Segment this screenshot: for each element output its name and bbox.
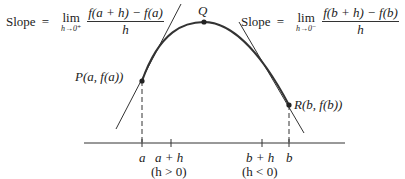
point-p xyxy=(139,78,144,83)
fraction: f(a + h) − f(a) h xyxy=(87,6,164,38)
denominator: h xyxy=(357,22,364,38)
axis-label-a: a xyxy=(139,151,146,164)
axis-label-b-plus-h-condition: (h < 0) xyxy=(242,165,278,178)
point-r xyxy=(286,102,291,107)
axis-label-a-plus-h-condition: (h > 0) xyxy=(151,165,187,178)
slope-label: Slope xyxy=(241,14,271,30)
axis-label-a-plus-h: a + h xyxy=(155,151,183,164)
fraction: f(b + h) − f(b) h xyxy=(322,6,399,38)
slope-label: Slope xyxy=(6,14,36,30)
limit: lim h→0⁺ xyxy=(61,11,81,33)
point-q-label: Q xyxy=(198,4,207,17)
equals-sign: = xyxy=(42,14,49,30)
numerator: f(a + h) − f(a) xyxy=(87,6,164,22)
point-p-label: P(a, f(a)) xyxy=(75,70,123,83)
axis-label-b: b xyxy=(286,151,293,164)
point-q xyxy=(201,19,206,24)
lim-text: lim xyxy=(62,11,79,24)
axis-label-b-plus-h: b + h xyxy=(246,151,274,164)
lim-text: lim xyxy=(297,11,314,24)
lim-subscript: h→0⁻ xyxy=(296,25,316,33)
equals-sign: = xyxy=(277,14,284,30)
point-r-label: R(b, f(b)) xyxy=(294,98,342,111)
limit: lim h→0⁻ xyxy=(296,11,316,33)
right-slope-formula: Slope = lim h→0⁻ f(b + h) − f(b) h xyxy=(241,6,399,38)
tangent-line-r xyxy=(239,22,304,133)
lim-subscript: h→0⁺ xyxy=(61,25,81,33)
left-slope-formula: Slope = lim h→0⁺ f(a + h) − f(a) h xyxy=(6,6,164,38)
denominator: h xyxy=(122,22,129,38)
numerator: f(b + h) − f(b) xyxy=(322,6,399,22)
